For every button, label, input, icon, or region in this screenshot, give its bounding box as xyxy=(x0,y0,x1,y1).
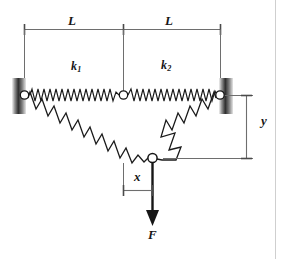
spring-diagram-canvas xyxy=(0,0,285,259)
label-spring-k1: k1 xyxy=(71,60,81,74)
force-arrowhead-icon xyxy=(146,210,159,226)
node-center xyxy=(119,91,127,99)
node-bottom xyxy=(148,153,157,162)
spring-system-figure: L L k1 k2 y x F xyxy=(0,0,285,259)
label-spring-k2-subscript: 2 xyxy=(167,64,171,73)
pin-joint-left-support xyxy=(20,91,28,99)
label-length-right: L xyxy=(165,14,173,27)
spring-diagonal-left xyxy=(28,92,148,163)
label-force: F xyxy=(148,228,157,241)
label-length-left: L xyxy=(68,14,76,27)
pin-joint-right-support xyxy=(216,91,224,99)
spring-k2 xyxy=(128,89,217,101)
label-spring-k2: k2 xyxy=(161,59,171,73)
spring-diagonal-right xyxy=(157,92,216,160)
label-horizontal-displacement: x xyxy=(134,170,141,183)
dimension-L-group xyxy=(25,24,221,92)
label-spring-k1-subscript: 1 xyxy=(77,65,81,74)
spring-k1 xyxy=(30,89,119,101)
label-vertical-displacement: y xyxy=(261,114,267,127)
dimension-y-group xyxy=(163,96,253,159)
